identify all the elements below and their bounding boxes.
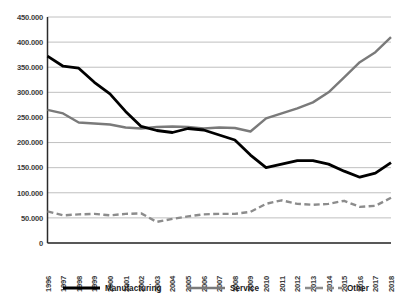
x-axis-tick-label: 1998	[75, 276, 84, 292]
legend-label-service: Service	[230, 284, 260, 293]
x-axis-tick-label: 2010	[262, 276, 271, 292]
x-axis-tick-label: 1997	[59, 276, 68, 292]
y-axis-tick-label: 450.000	[17, 13, 43, 22]
y-axis-tick-label: 250.000	[17, 113, 43, 122]
y-axis-tick-label: 0	[39, 239, 43, 248]
x-axis-tick-label: 2011	[278, 275, 287, 292]
x-axis-tick-label: 2018	[387, 276, 396, 292]
x-axis-tick-label: 2013	[309, 276, 318, 292]
y-axis-tick-label: 300.000	[17, 88, 43, 97]
gridlines-group	[48, 17, 392, 243]
y-axis-tick-label: 100.000	[17, 189, 43, 198]
y-axis-tick-labels: 050.000100.000150.000200.000250.000300.0…	[17, 13, 43, 248]
y-axis-tick-label: 50.000	[21, 214, 43, 223]
y-axis-tick-label: 150.000	[17, 163, 43, 172]
x-axis-tick-label: 1996	[44, 276, 53, 292]
x-axis-tick-label: 2006	[200, 276, 209, 292]
x-axis-tick-label: 1999	[90, 276, 99, 292]
legend-label-manufacturing: Manufacturing	[105, 284, 161, 293]
data-series-group	[48, 37, 392, 222]
legend-label-other: Other	[347, 284, 370, 293]
chart-canvas: 050.000100.000150.000200.000250.000300.0…	[0, 0, 401, 300]
x-axis-tick-label: 2007	[215, 276, 224, 292]
axis-lines	[48, 17, 392, 243]
x-axis-tick-label: 2004	[168, 275, 177, 292]
series-line-manufacturing	[48, 56, 392, 177]
x-axis-tick-label: 2014	[325, 275, 334, 292]
line-chart: 050.000100.000150.000200.000250.000300.0…	[0, 0, 401, 300]
y-axis-tick-label: 200.000	[17, 138, 43, 147]
x-axis-tick-labels: 1996199719981999200020012002200320042005…	[44, 275, 397, 292]
x-axis-tick-label: 2005	[184, 275, 193, 292]
y-axis-tick-label: 400.000	[17, 38, 43, 47]
x-axis-tick-label: 2012	[293, 276, 302, 292]
x-axis-tick-label: 2017	[371, 276, 380, 292]
y-axis-tick-label: 350.000	[17, 63, 43, 72]
